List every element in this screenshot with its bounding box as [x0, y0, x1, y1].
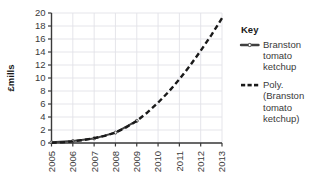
x-axis-tick-labels: 200520062007200820092010201120122013	[46, 151, 228, 172]
x-axis-tick-label: 2013	[216, 151, 227, 172]
y-axis-tick-label: 0	[40, 137, 45, 148]
legend-entry-label: ketchup)	[263, 113, 299, 124]
y-axis-tick-label: 6	[40, 98, 45, 109]
y-axis-tick-label: 18	[35, 20, 46, 31]
x-axis-tick-label: 2008	[110, 151, 121, 172]
legend-entry-label: Branston	[263, 39, 301, 50]
y-axis-tick-label: 10	[35, 72, 46, 83]
x-axis-tick-label: 2011	[174, 151, 185, 171]
legend-entry-label: ketchup	[263, 61, 296, 72]
x-axis-tick-label: 2012	[195, 151, 206, 172]
legend-title: Key	[241, 24, 259, 35]
legend-entry-label: (Branston	[263, 90, 304, 101]
y-axis-tick-label: 20	[35, 7, 46, 18]
y-axis-tick-label: 16	[35, 33, 46, 44]
x-axis-tick-label: 2009	[131, 151, 142, 172]
y-axis-tick-label: 2	[40, 124, 45, 135]
x-axis-tick-label: 2005	[46, 151, 57, 172]
y-axis-tick-label: 8	[40, 85, 45, 96]
y-axis-title: £mills	[5, 65, 16, 92]
y-axis-tick-label: 4	[40, 111, 45, 122]
legend-entry-label: tomato	[263, 50, 292, 61]
y-axis-tick-label: 12	[35, 59, 46, 70]
chart-figure: 02468101214161820 2005200620072008200920…	[0, 0, 323, 189]
x-axis-tick-label: 2007	[89, 151, 100, 172]
line-chart: 02468101214161820 2005200620072008200920…	[0, 0, 323, 189]
legend-marker-dot	[248, 43, 251, 46]
y-axis-tick-label: 14	[35, 46, 46, 57]
x-axis-tick-label: 2006	[67, 151, 78, 172]
legend-entry-label: tomato	[263, 102, 292, 113]
x-axis-tick-label: 2010	[152, 151, 163, 172]
legend-entry-label: Poly.	[263, 79, 283, 90]
